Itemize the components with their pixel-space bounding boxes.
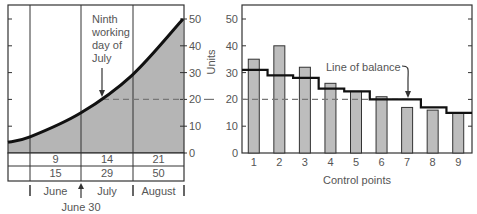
annotation-text: day of <box>92 39 123 51</box>
x-tick-label: 5 <box>353 156 359 168</box>
table-cell: 29 <box>101 167 113 179</box>
y-tick-label: 10 <box>226 120 238 132</box>
x-tick-label: 3 <box>302 156 308 168</box>
table-cell: 9 <box>52 153 58 165</box>
y-tick-label: 40 <box>226 40 238 52</box>
y-tick-label: 20 <box>189 93 201 105</box>
x-tick-label: 9 <box>455 156 461 168</box>
x-tick-label: 8 <box>430 156 436 168</box>
annotation-text: Line of balance <box>326 61 401 73</box>
bar <box>248 59 259 153</box>
table-cell: 15 <box>49 167 61 179</box>
table-cell: 14 <box>101 153 113 165</box>
y-tick-label: 50 <box>189 13 201 25</box>
x-tick-label: 7 <box>404 156 410 168</box>
y-axis-label: Units <box>205 49 217 75</box>
month-label: August <box>141 185 175 197</box>
marker-label: June 30 <box>61 201 100 213</box>
annotation-arrowhead <box>405 91 411 98</box>
y-tick-label: 10 <box>189 120 201 132</box>
y-tick-label: 0 <box>189 147 195 159</box>
y-tick-label: 50 <box>226 13 238 25</box>
bar <box>299 67 310 153</box>
x-axis-label: Control points <box>323 174 391 186</box>
line-of-balance-figure: 01020304050Ninthworkingday ofJuly9142115… <box>0 0 477 214</box>
bar <box>325 83 336 153</box>
x-tick-label: 4 <box>327 156 333 168</box>
x-tick-label: 1 <box>251 156 257 168</box>
month-label: June <box>44 185 68 197</box>
bar <box>427 110 438 153</box>
y-tick-label: 20 <box>226 93 238 105</box>
table-cell: 21 <box>152 153 164 165</box>
bar <box>453 113 464 153</box>
annotation-text: July <box>92 52 112 64</box>
y-tick-label: 0 <box>232 147 238 159</box>
june30-arrowhead <box>78 183 84 189</box>
annotation-text: Ninth <box>92 13 118 25</box>
cumulative-chart: 01020304050Ninthworkingday ofJuly9142115… <box>8 5 214 213</box>
control-points-chart: 01020304050UnitsLine of balance123456789… <box>205 5 472 186</box>
annotation-arrow <box>402 66 408 92</box>
month-label: July <box>97 185 117 197</box>
annotation-text: working <box>91 26 130 38</box>
y-tick-label: 30 <box>189 67 201 79</box>
bar <box>402 107 413 153</box>
x-tick-label: 2 <box>276 156 282 168</box>
x-tick-label: 6 <box>378 156 384 168</box>
bar <box>351 91 362 153</box>
bar <box>376 97 387 153</box>
table-cell: 50 <box>152 167 164 179</box>
y-tick-label: 40 <box>189 40 201 52</box>
y-tick-label: 30 <box>226 67 238 79</box>
